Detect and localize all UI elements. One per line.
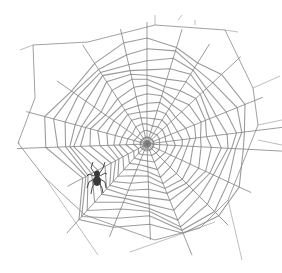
web-frame-thread	[18, 25, 258, 240]
spider-web-illustration	[0, 0, 282, 273]
